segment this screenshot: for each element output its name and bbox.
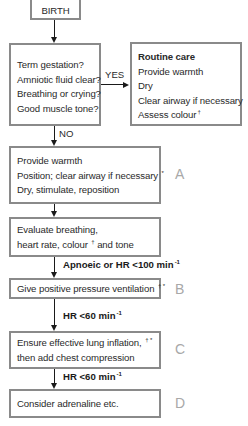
step-c-box: Ensure effective lung inflation, † * the… (9, 331, 161, 369)
footnote-marks: † * (158, 283, 165, 289)
footnote-marks: † * (145, 337, 152, 343)
step-letter-c: C (175, 341, 185, 357)
arrow-b-to-c (54, 299, 55, 325)
step-c-line: then add chest compression (17, 351, 159, 366)
condition-apnoeic: Apnoeic or HR <100 min-1 (63, 259, 180, 270)
step-d-box: Consider adrenaline etc. (9, 389, 161, 418)
routine-care-title: Routine care (138, 50, 240, 65)
birth-box: BIRTH (30, 0, 81, 20)
step-a-box: Provide warmth Position; clear airway if… (9, 146, 161, 204)
birth-label: BIRTH (41, 5, 69, 16)
arrow-evaluate-to-b (54, 257, 55, 272)
routine-care-line: Provide warmth (138, 65, 240, 80)
routine-care-line: Clear airway if necessary (138, 94, 240, 109)
step-a-line: Dry, stimulate, reposition (17, 183, 159, 198)
arrow-c-to-d (54, 369, 55, 383)
footnote-dagger: † (197, 109, 200, 115)
step-b-text: Give positive pressure ventilation † * (17, 282, 159, 297)
arrow-no (54, 126, 55, 140)
step-c-line: Ensure effective lung inflation, † * (17, 336, 159, 351)
routine-care-line: Dry (138, 79, 240, 94)
footnote-asterisk: * (162, 170, 164, 176)
evaluate-line: Evaluate breathing, (17, 223, 159, 238)
arrow-birth-to-assessment (54, 20, 55, 37)
routine-care-line: Assess colour† (138, 108, 240, 123)
arrow-yes (101, 84, 124, 85)
step-a-line: Provide warmth (17, 154, 159, 169)
routine-care-box: Routine care Provide warmth Dry Clear ai… (130, 42, 242, 126)
evaluate-line: heart rate, colour † and tone (17, 238, 159, 253)
step-letter-a: A (175, 166, 184, 182)
step-d-text: Consider adrenaline etc. (17, 397, 159, 412)
condition-hr60: HR <60 min-1 (63, 310, 122, 321)
assessment-line: Breathing or crying? (17, 87, 99, 102)
assessment-box: Term gestation? Amniotic fluid clear? Br… (9, 43, 101, 126)
step-letter-d: D (175, 395, 185, 411)
no-label: NO (59, 128, 73, 139)
step-b-box: Give positive pressure ventilation † * (9, 278, 161, 299)
assessment-line: Term gestation? (17, 58, 99, 73)
evaluate-box: Evaluate breathing, heart rate, colour †… (9, 217, 161, 257)
arrowhead-icon (123, 82, 129, 88)
assessment-line: Amniotic fluid clear? (17, 73, 99, 88)
condition-hr60: HR <60 min-1 (63, 371, 122, 382)
step-a-line: Position; clear airway if necessary * (17, 169, 159, 184)
assessment-line: Good muscle tone? (17, 102, 99, 117)
yes-label: YES (105, 69, 124, 80)
arrow-a-to-evaluate (54, 204, 55, 211)
step-letter-b: B (175, 281, 184, 297)
